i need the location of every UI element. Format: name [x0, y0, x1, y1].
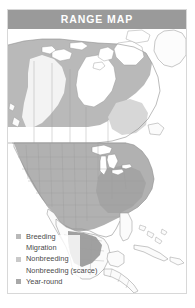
legend-label-nonbreeding: Nonbreeding: [26, 255, 69, 262]
legend-swatch-nonbreeding-scarce: [16, 268, 21, 273]
legend-item-nonbreeding-scarce: Nonbreeding (scarce): [16, 265, 136, 276]
legend-item-nonbreeding: Nonbreeding: [16, 253, 136, 264]
legend-label-breeding: Breeding: [26, 233, 56, 240]
card-header: RANGE MAP: [8, 10, 186, 29]
legend-swatch-year-round: [16, 279, 21, 284]
legend-item-migration: Migration: [16, 242, 136, 253]
legend-swatch-breeding: [16, 234, 21, 239]
map-legend: Breeding Migration Nonbreeding Nonbreedi…: [16, 231, 136, 287]
legend-label-nonbreeding-scarce: Nonbreeding (scarce): [26, 267, 97, 274]
page-title: RANGE MAP: [61, 14, 133, 25]
legend-label-year-round: Year-round: [26, 278, 63, 285]
map-area: Breeding Migration Nonbreeding Nonbreedi…: [8, 29, 186, 293]
legend-label-migration: Migration: [26, 244, 57, 251]
legend-swatch-nonbreeding: [16, 257, 21, 262]
range-map-card: RANGE MAP: [7, 9, 187, 294]
legend-swatch-migration: [16, 245, 21, 250]
legend-item-year-round: Year-round: [16, 276, 136, 287]
legend-item-breeding: Breeding: [16, 231, 136, 242]
